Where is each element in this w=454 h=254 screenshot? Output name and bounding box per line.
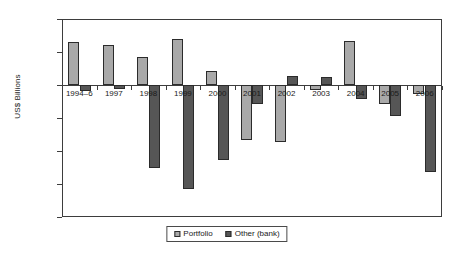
plot-area <box>62 19 442 217</box>
bar-portfolio <box>103 45 114 85</box>
x-tick-mark <box>62 86 63 90</box>
portfolio-swatch-icon <box>174 231 180 237</box>
bar-chart: US$ Billions 100500−50−100−150−200 1994–… <box>0 0 454 254</box>
x-tick-label: 1997 <box>105 89 123 98</box>
x-tick-mark <box>235 86 236 90</box>
x-tick-mark <box>131 86 132 90</box>
bar-other-bank <box>287 76 298 85</box>
x-tick-label: 2004 <box>347 89 365 98</box>
x-tick-label: 2000 <box>209 89 227 98</box>
bar-other-bank <box>425 85 436 172</box>
x-tick-mark <box>442 86 443 90</box>
legend-label-portfolio: Portfolio <box>183 229 212 238</box>
legend-label-other-bank: Other (bank) <box>235 229 280 238</box>
x-tick-label: 2003 <box>312 89 330 98</box>
x-tick-mark <box>338 86 339 90</box>
bar-portfolio <box>344 41 355 85</box>
x-tick-mark <box>304 86 305 90</box>
bar-portfolio <box>206 71 217 85</box>
x-tick-label: 1998 <box>139 89 157 98</box>
x-tick-label: 2002 <box>278 89 296 98</box>
x-tick-label: 2006 <box>416 89 434 98</box>
x-tick-mark <box>407 86 408 90</box>
x-tick-mark <box>269 86 270 90</box>
x-tick-label: 2001 <box>243 89 261 98</box>
bar-portfolio <box>68 42 79 85</box>
x-tick-label: 1994–6 <box>66 89 93 98</box>
bar-other-bank <box>183 85 194 189</box>
other-bank-swatch-icon <box>226 231 232 237</box>
bar-portfolio <box>172 39 183 85</box>
bar-portfolio <box>137 57 148 85</box>
x-tick-mark <box>200 86 201 90</box>
y-axis-title: US$ Billions <box>13 47 22 147</box>
x-tick-mark <box>166 86 167 90</box>
legend-item-portfolio[interactable]: Portfolio <box>174 229 212 238</box>
chart-legend: Portfolio Other (bank) <box>166 226 287 242</box>
x-tick-label: 1999 <box>174 89 192 98</box>
legend-item-other-bank[interactable]: Other (bank) <box>226 229 280 238</box>
y-tick-mark <box>57 217 62 218</box>
x-tick-mark <box>97 86 98 90</box>
x-tick-label: 2005 <box>381 89 399 98</box>
x-tick-mark <box>373 86 374 90</box>
bar-other-bank <box>321 77 332 85</box>
